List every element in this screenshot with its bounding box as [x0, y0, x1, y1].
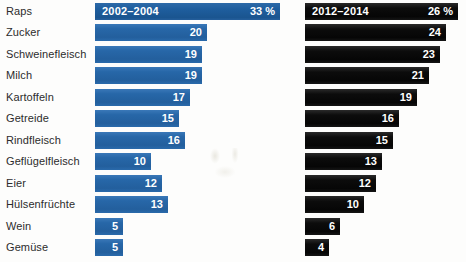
bar-right: 19 — [305, 89, 417, 106]
bar-right: 4 — [305, 239, 329, 256]
bar-right-header: 2012–201426 % — [305, 3, 458, 20]
bar-right: 15 — [305, 132, 393, 149]
bar-left: 5 — [95, 239, 123, 256]
bar-left: 19 — [95, 67, 202, 84]
category-label: Raps — [6, 3, 32, 20]
category-label: Gemüse — [6, 239, 48, 256]
bar-left: 20 — [95, 24, 207, 41]
category-label: Schweinefleisch — [6, 46, 86, 63]
category-label: Rindfleisch — [6, 132, 61, 149]
bar-right-value: 19 — [400, 89, 412, 106]
bar-left-value: 19 — [185, 46, 197, 63]
chart-row: Hülsenfrüchte1310 — [0, 196, 466, 213]
chart-row: Gemüse54 — [0, 239, 466, 256]
bar-left: 16 — [95, 132, 185, 149]
bar-right-value: 13 — [365, 153, 377, 170]
bar-left-value: 33 % — [250, 3, 275, 20]
chart-row: Rindfleisch1615 — [0, 132, 466, 149]
bar-right-value: 12 — [359, 175, 371, 192]
bar-right: 24 — [305, 24, 446, 41]
bar-left: 17 — [95, 89, 190, 106]
bar-right-value: 23 — [423, 46, 435, 63]
bar-right: 23 — [305, 46, 440, 63]
chart-row: Milch1921 — [0, 67, 466, 84]
chart-row: Eier1212 — [0, 175, 466, 192]
bar-left-value: 20 — [190, 24, 202, 41]
category-label: Hülsenfrüchte — [6, 196, 75, 213]
grouped-bar-chart: Raps2002–200433 %2012–201426 %Zucker2024… — [0, 0, 466, 262]
bar-right-value: 24 — [429, 24, 441, 41]
category-label: Eier — [6, 175, 26, 192]
chart-row: Schweinefleisch1923 — [0, 46, 466, 63]
bar-left-value: 16 — [168, 132, 180, 149]
bar-right-value: 21 — [412, 67, 424, 84]
bar-right: 21 — [305, 67, 429, 84]
bar-left-value: 17 — [173, 89, 185, 106]
bar-right-value: 26 % — [428, 3, 453, 20]
bar-left: 5 — [95, 218, 123, 235]
bar-right-value: 15 — [376, 132, 388, 149]
bar-left-header: 2002–200433 % — [95, 3, 280, 20]
chart-row: Raps2002–200433 %2012–201426 % — [0, 3, 466, 20]
category-label: Zucker — [6, 24, 40, 41]
bar-left: 19 — [95, 46, 202, 63]
bar-left: 10 — [95, 153, 151, 170]
bar-left-value: 13 — [151, 196, 163, 213]
chart-row: Kartoffeln1719 — [0, 89, 466, 106]
category-label: Geflügelfleisch — [6, 153, 80, 170]
category-label: Wein — [6, 218, 31, 235]
chart-row: Getreide1516 — [0, 110, 466, 127]
bar-right: 13 — [305, 153, 382, 170]
bar-left-value: 10 — [134, 153, 146, 170]
category-label: Milch — [6, 67, 32, 84]
bar-left: 13 — [95, 196, 168, 213]
bar-right-value: 16 — [382, 110, 394, 127]
bar-right: 10 — [305, 196, 364, 213]
chart-row: Geflügelfleisch1013 — [0, 153, 466, 170]
bar-left-value: 19 — [185, 67, 197, 84]
bar-right: 16 — [305, 110, 399, 127]
bar-left-value: 5 — [112, 218, 118, 235]
category-label: Kartoffeln — [6, 89, 54, 106]
series-right-period-label: 2012–2014 — [312, 3, 369, 20]
bar-left: 15 — [95, 110, 179, 127]
bar-left-value: 15 — [162, 110, 174, 127]
chart-row: Zucker2024 — [0, 24, 466, 41]
series-left-period-label: 2002–2004 — [102, 3, 159, 20]
bar-right: 6 — [305, 218, 340, 235]
category-label: Getreide — [6, 110, 49, 127]
bar-left-value: 5 — [112, 239, 118, 256]
bar-left-value: 12 — [145, 175, 157, 192]
bar-right-value: 6 — [329, 218, 335, 235]
chart-row: Wein56 — [0, 218, 466, 235]
bar-left: 12 — [95, 175, 162, 192]
bar-right-value: 4 — [318, 239, 324, 256]
bar-right-value: 10 — [347, 196, 359, 213]
bar-right: 12 — [305, 175, 376, 192]
